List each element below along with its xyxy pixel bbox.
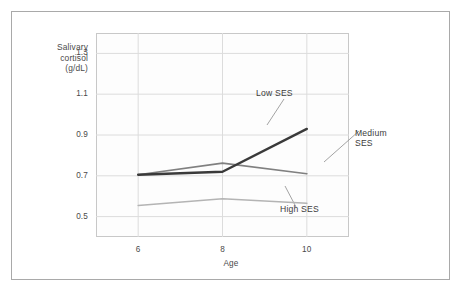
x-axis-title: Age [0, 259, 462, 268]
x-tick-label-3: 10 [292, 245, 322, 254]
x-tick-label-2: 8 [208, 245, 238, 254]
y-tick-label-4: 0.7 [62, 171, 88, 180]
leader-line-low-ses [267, 99, 284, 125]
x-tick-label-1: 6 [123, 245, 153, 254]
y-axis-title: Salivary cortisol (g/dL) [22, 42, 88, 74]
series-annotation-high-ses: High SES [280, 204, 340, 214]
y-tick-label-5: 0.5 [62, 212, 88, 221]
y-tick-label-2: 1.1 [62, 89, 88, 98]
series-annotation-low-ses: Low SES [256, 88, 312, 98]
chart-figure: Salivary cortisol (g/dL) 1.3 1.1 0.9 0.7… [0, 0, 462, 292]
y-tick-label-3: 0.9 [62, 130, 88, 139]
series-annotation-medium-ses: Medium SES [355, 128, 403, 149]
y-tick-label-1: 1.3 [62, 48, 88, 57]
